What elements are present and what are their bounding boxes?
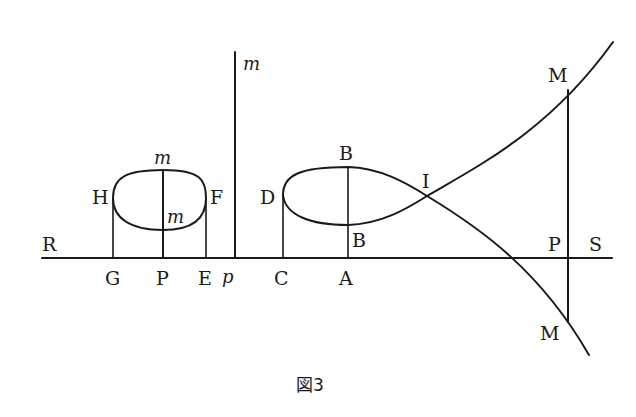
label-m-top: m: [154, 147, 171, 168]
label-m-lower: M: [540, 322, 559, 344]
label-m-vertical: m: [243, 53, 260, 74]
label-c: C: [274, 267, 289, 289]
label-i: I: [422, 170, 430, 192]
label-g: G: [105, 267, 120, 289]
label-m-inner: m: [167, 206, 184, 227]
label-b-top: B: [339, 142, 353, 164]
label-p-left: P: [156, 267, 169, 289]
label-p-right: P: [548, 233, 561, 255]
label-m-upper: M: [548, 64, 567, 86]
label-p-small: p: [222, 266, 234, 287]
label-a: A: [338, 267, 353, 289]
label-h: H: [92, 186, 109, 208]
label-s: S: [589, 233, 602, 255]
curve-diagram: R G P E p C A P S H F m m m D B B I M M: [0, 0, 636, 417]
figure-caption: 図3: [296, 371, 324, 396]
label-d: D: [260, 186, 275, 208]
label-f: F: [210, 186, 223, 208]
label-e: E: [198, 267, 212, 289]
label-b-bottom: B: [352, 229, 366, 251]
left-oval: [113, 170, 206, 230]
label-r: R: [42, 233, 57, 255]
